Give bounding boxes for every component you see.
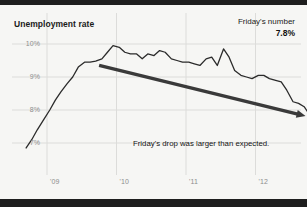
trend-arrow-head [296, 110, 306, 118]
plot-area: Unemployment rate Friday's number 7.8% F… [0, 5, 307, 199]
y-axis-tick-label: 9% [14, 73, 40, 80]
x-axis-tick-label: '12 [259, 178, 268, 185]
trend-arrow-shaft [99, 65, 299, 114]
callout-label: Friday's number [238, 17, 295, 28]
y-axis-tick-label: 7% [14, 139, 40, 146]
data-line-unemployment-rate [26, 46, 307, 148]
y-axis-tick-label: 8% [14, 106, 40, 113]
callout-value: 7.8% [238, 28, 295, 39]
x-axis-tick-label: '11 [189, 178, 198, 185]
y-axis-tick-label: 10% [14, 40, 40, 47]
page-title: Unemployment rate [14, 19, 94, 29]
x-axis-tick-label: '09 [50, 178, 59, 185]
chart-figure: Unemployment rate Friday's number 7.8% F… [0, 0, 307, 207]
friday-number-callout: Friday's number 7.8% [238, 17, 295, 39]
bottom-border-band [0, 199, 307, 207]
x-axis-tick-label: '10 [120, 178, 129, 185]
chart-annotation: Friday's drop was larger than expected. [133, 139, 269, 148]
